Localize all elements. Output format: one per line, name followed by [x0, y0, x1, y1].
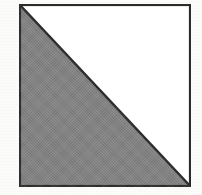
- square-figure: [19, 4, 191, 187]
- geometry-diagram-svg: [19, 4, 191, 187]
- figure-canvas: Square divided by a diagonal; the lower-…: [0, 0, 202, 195]
